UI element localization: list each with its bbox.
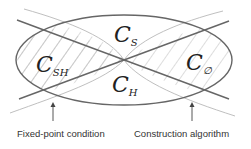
label-c-h: CH <box>112 72 138 98</box>
fixed-point-arrow <box>51 102 56 121</box>
label-c-s: CS <box>114 22 138 48</box>
caption-construction-algorithm: Construction algorithm <box>134 128 229 139</box>
set-diagram: CS CSH CH C∅ Fixed-point condition Const… <box>0 0 251 149</box>
construction-arrow <box>190 102 195 121</box>
hatch-right-lens <box>124 21 229 99</box>
caption-fixed-point-condition: Fixed-point condition <box>17 128 105 139</box>
